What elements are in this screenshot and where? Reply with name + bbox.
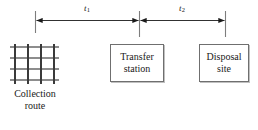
grid-vertical-line: [14, 44, 16, 84]
collection-route-caption-line2: route: [0, 100, 74, 112]
grid-vertical-line: [40, 44, 42, 84]
grid-vertical-line: [27, 44, 29, 84]
grid-horizontal-line: [10, 57, 59, 59]
collection-route-caption-line1: Collection: [0, 88, 74, 100]
disposal-site-box: Disposal site: [199, 44, 249, 82]
disposal-site-label-line1: Disposal: [205, 51, 244, 63]
collection-route-grid: [10, 44, 59, 84]
disposal-site-label-group: Disposal site: [205, 51, 244, 75]
grid-vertical-line: [53, 44, 55, 84]
grid-horizontal-line: [10, 79, 59, 81]
transfer-station-box: Transfer station: [110, 44, 164, 82]
grid-horizontal-line: [10, 68, 59, 70]
transfer-station-label-group: Transfer station: [118, 51, 156, 75]
transfer-station-label-line1: Transfer: [118, 51, 156, 63]
transfer-station-label-line2: station: [118, 63, 156, 75]
disposal-site-label-line2: site: [205, 63, 244, 75]
diagram-canvas: t1 t2 Collection route Transfer station …: [0, 0, 258, 130]
span-label-t1: t1: [35, 4, 139, 14]
span-subscript-t1: 1: [87, 6, 90, 13]
grid-horizontal-line: [10, 46, 59, 48]
span-label-t2: t2: [139, 4, 225, 14]
collection-route-caption: Collection route: [0, 88, 74, 112]
span-subscript-t2: 2: [182, 6, 185, 13]
